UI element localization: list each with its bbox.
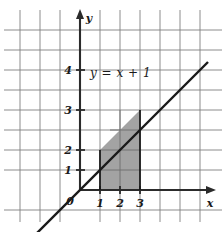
y-axis-tick-label-2: 2: [63, 144, 72, 157]
figure-background: [0, 0, 224, 232]
x-axis-tick-label-3: 3: [136, 197, 144, 210]
x-axis-tick-label-2: 2: [115, 197, 124, 210]
origin-label: 0: [66, 195, 74, 208]
graph-figure: 1 2 3 1 2 3 4 0 y x y = x + 1: [0, 0, 224, 232]
equation-annotation: y = x + 1: [89, 66, 151, 80]
coordinate-plane-svg: 1 2 3 1 2 3 4 0 y x y = x + 1: [0, 0, 224, 232]
x-axis-label: x: [206, 197, 214, 210]
y-axis-tick-label-3: 3: [64, 104, 72, 117]
y-axis-tick-label-1: 1: [64, 164, 72, 177]
y-axis-tick-label-4: 4: [64, 64, 72, 77]
x-axis-tick-label-1: 1: [96, 197, 104, 210]
